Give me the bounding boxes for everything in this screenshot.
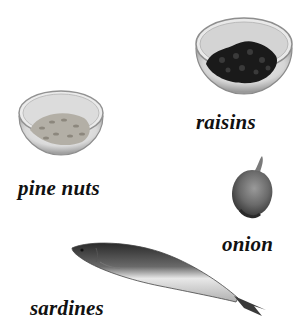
bowl-of-pine-nuts-icon <box>16 84 106 158</box>
bowl-of-raisins-icon <box>192 12 296 98</box>
pine-nuts-bowl-illustration <box>16 84 106 158</box>
label-pine-nuts: pine nuts <box>18 178 100 199</box>
label-sardines: sardines <box>30 298 104 319</box>
raisins-bowl-illustration <box>192 12 296 98</box>
onion-illustration <box>228 154 276 220</box>
onion-icon <box>228 154 276 220</box>
label-raisins: raisins <box>196 112 256 133</box>
